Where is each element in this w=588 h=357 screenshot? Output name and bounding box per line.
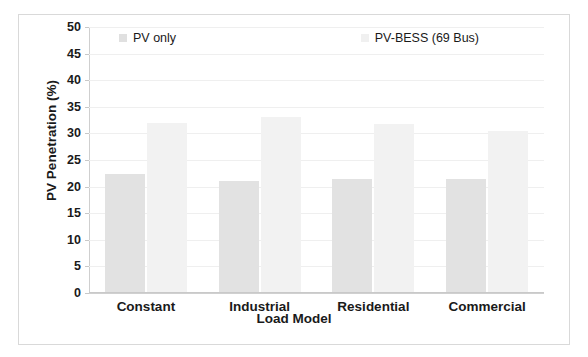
y-axis-title: PV Penetration (%) (44, 41, 59, 241)
y-axis-tick-label: 35 (67, 100, 81, 114)
y-axis-tick-label: 25 (67, 153, 81, 167)
y-axis-tick-label: 50 (67, 20, 81, 34)
bar[interactable] (374, 124, 414, 293)
bar-group-industrial (219, 27, 301, 293)
bar-group-residential (332, 27, 414, 293)
y-axis-tick-label: 30 (67, 126, 81, 140)
y-axis-tick-label: 0 (74, 286, 81, 300)
bar[interactable] (261, 117, 301, 293)
y-axis-tick-label: 10 (67, 233, 81, 247)
y-axis-tick-label: 45 (67, 47, 81, 61)
y-axis-tick-label: 40 (67, 73, 81, 87)
y-axis-tick-label: 5 (74, 259, 81, 273)
bar[interactable] (105, 174, 145, 293)
bar-group-commercial (446, 27, 528, 293)
chart-frame: PV Penetration (%) PV only PV-BESS (69 B… (18, 14, 570, 345)
bar[interactable] (332, 179, 372, 293)
bar[interactable] (219, 181, 259, 293)
x-axis-title: Load Model (19, 311, 569, 326)
gridline (89, 293, 544, 294)
y-axis-tick-label: 15 (67, 206, 81, 220)
x-axis-line (89, 292, 544, 293)
bar[interactable] (147, 123, 187, 293)
bar-group-constant (105, 27, 187, 293)
bar[interactable] (446, 179, 486, 293)
plot-area: 50454035302520151050 (89, 27, 544, 293)
y-axis-tick-mark (85, 293, 89, 294)
bars-layer (89, 27, 544, 293)
bar[interactable] (488, 131, 528, 293)
y-axis-tick-label: 20 (67, 180, 81, 194)
